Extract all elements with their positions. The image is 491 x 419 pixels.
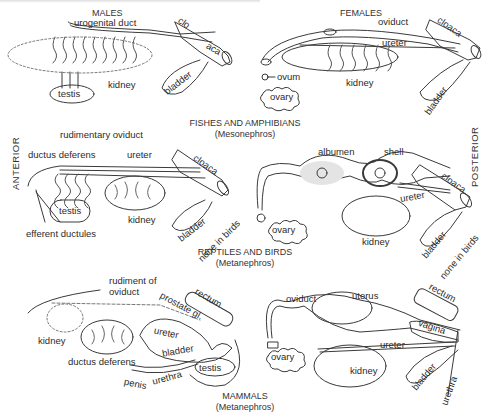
- label-ureter: ureter: [382, 38, 407, 48]
- anterior-label: ANTERIOR: [10, 137, 21, 190]
- label-kidney: kidney: [108, 80, 135, 90]
- label-rudiment-of-oviduct-line2: oviduct: [109, 287, 139, 297]
- section-subtitle-text: (Metanephros): [145, 402, 345, 413]
- label-ureter: ureter: [380, 340, 405, 350]
- label-kidney: kidney: [346, 78, 373, 88]
- label-testis: testis: [199, 363, 221, 373]
- section-title-text: MAMMALS: [145, 391, 345, 402]
- posterior-label: POSTERIOR: [469, 127, 480, 187]
- label-ureter: ureter: [127, 150, 152, 160]
- label-ovary: ovary: [271, 352, 294, 362]
- label-ductus-deferens: ductus deferens: [68, 357, 136, 367]
- section-title-text: REPTILES AND BIRDS: [145, 247, 345, 258]
- females-header: FEMALES: [340, 8, 382, 19]
- label-albumen: albumen: [318, 147, 354, 157]
- label-kidney: kidney: [128, 215, 155, 225]
- label-efferent-ductules: efferent ductules: [26, 229, 96, 239]
- label-oviduct: oviduct: [378, 17, 408, 27]
- label-testis: testis: [59, 206, 81, 216]
- label-ductus-deferens: ductus deferens: [28, 150, 96, 160]
- section-subtitle-text: (Metanephros): [145, 258, 345, 269]
- label-urogenital-duct: urogenital duct: [74, 18, 136, 28]
- label-oviduct: oviduct: [286, 294, 316, 304]
- label-rudimentary-oviduct: rudimentary oviduct: [60, 130, 143, 140]
- fish-male-drawing: [8, 22, 234, 103]
- label-ovary: ovary: [272, 225, 295, 235]
- label-ovary: ovary: [270, 92, 293, 102]
- label-ovum: ovum: [277, 72, 300, 82]
- section-title-text: FISHES AND AMPHIBIANS: [145, 118, 345, 129]
- section-title-fishes: FISHES AND AMPHIBIANS (Mesonephros): [145, 118, 345, 140]
- section-title-mammals: MAMMALS (Metanephros): [145, 391, 345, 413]
- label-rudiment-of-oviduct-line1: rudiment of: [109, 276, 157, 286]
- label-kidney: kidney: [350, 366, 377, 376]
- section-subtitle-text: (Mesonephros): [145, 129, 345, 140]
- label-uterus: uterus: [352, 291, 378, 301]
- label-kidney: kidney: [38, 336, 65, 346]
- section-title-reptiles: REPTILES AND BIRDS (Metanephros): [145, 247, 345, 269]
- label-kidney: kidney: [362, 237, 389, 247]
- label-testis: testis: [58, 89, 80, 99]
- label-shell: shell: [384, 147, 404, 157]
